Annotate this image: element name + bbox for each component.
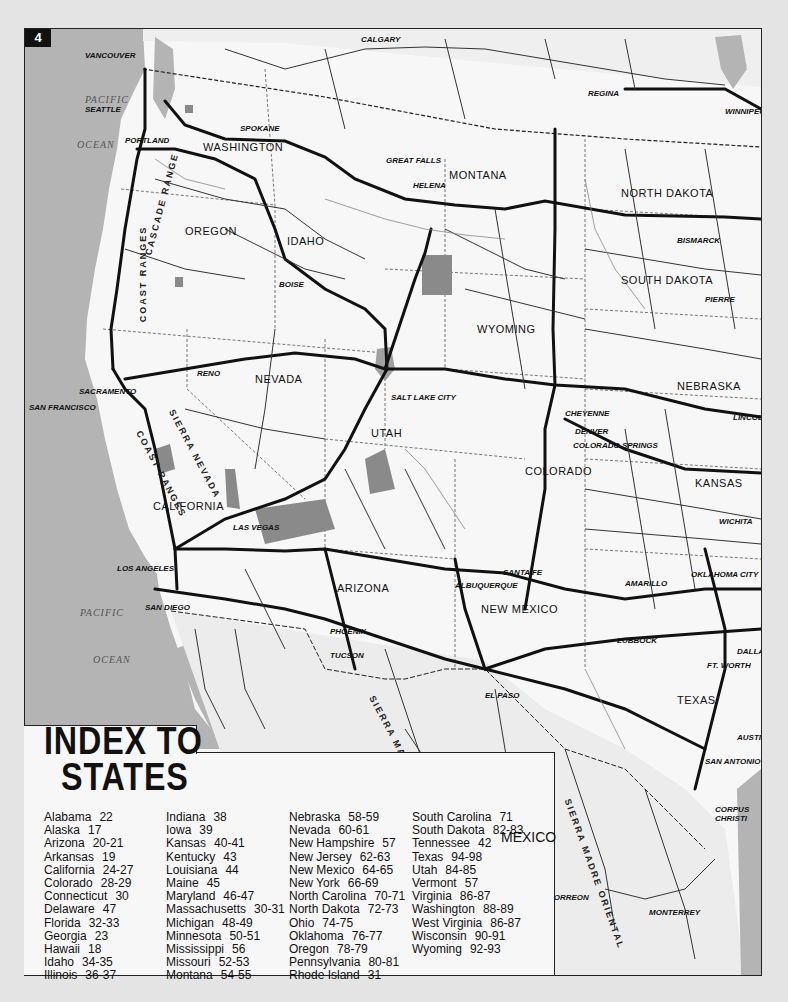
city-label-regina: REGINA	[588, 89, 619, 98]
city-label-seattle: SEATTLE	[85, 105, 121, 114]
city-label-san-antonio: SAN ANTONIO	[705, 757, 761, 766]
city-label-helena: HELENA	[413, 181, 446, 190]
page-number: 4	[25, 29, 51, 47]
city-label-santa-fe: SANTA FE	[503, 568, 542, 577]
city-label-tucson: TUCSON	[330, 651, 364, 660]
city-label-san-diego: SAN DIEGO	[145, 603, 190, 612]
state-label-oregon: OREGON	[185, 225, 237, 237]
index-column-1: Alabama22 Alaska17 Arizona20-21 Arkansas…	[44, 811, 166, 982]
index-column-2: Indiana38 Iowa39 Kansas40-41 Kentucky43 …	[166, 811, 289, 982]
city-label-salt-lake-city: SALT LAKE CITY	[391, 393, 456, 402]
state-label-montana: MONTANA	[449, 169, 507, 181]
water-label-ocean-south: OCEAN	[93, 654, 131, 665]
index-column-3: Nebraska58-59 Nevada60-61 New Hampshire5…	[289, 811, 412, 982]
state-label-idaho: IDAHO	[287, 235, 324, 247]
city-label-austin: AUSTIN	[737, 733, 762, 742]
city-label-calgary: CALGARY	[361, 35, 400, 44]
state-label-nebraska: NEBRASKA	[677, 380, 741, 392]
city-label-san-francisco: SAN FRANCISCO	[29, 403, 96, 412]
state-label-california: CALIFORNIA	[153, 500, 224, 512]
city-label-wichita: WICHITA	[719, 517, 753, 526]
city-label-oklahoma-city: OKLAHOMA CITY	[691, 570, 758, 579]
state-label-texas: TEXAS	[677, 694, 716, 706]
water-label-pacific-south: PACIFIC	[80, 607, 124, 618]
city-label-fort-worth: FT. WORTH	[707, 661, 751, 670]
city-label-las-vegas: LAS VEGAS	[233, 523, 279, 532]
index-entry: Wyoming92-93	[412, 943, 552, 956]
city-label-bismarck: BISMARCK	[677, 236, 720, 245]
water-label-pacific-north: PACIFIC	[85, 94, 129, 105]
index-entry: Rhode Island31	[289, 969, 412, 982]
city-label-lincoln: LINCOLN	[733, 413, 762, 422]
city-label-colorado-springs: COLORADO SPRINGS	[573, 441, 658, 450]
state-label-arizona: ARIZONA	[337, 582, 389, 594]
city-label-sacramento: SACRAMENTO	[79, 387, 136, 396]
city-label-pierre: PIERRE	[705, 295, 735, 304]
city-label-monterrey: MONTERREY	[649, 908, 700, 917]
index-entry: Montana54-55	[166, 969, 289, 982]
index-to-states-panel: INDEX TO STATES Alabama22 Alaska17 Arizo…	[24, 752, 555, 975]
city-label-corpus-christi: CORPUS CHRISTI	[715, 805, 759, 823]
state-label-nevada: NEVADA	[255, 373, 302, 385]
state-label-north-dakota: NORTH DAKOTA	[621, 187, 713, 199]
city-label-el-paso: EL PASO	[485, 691, 519, 700]
state-label-washington: WASHINGTON	[203, 141, 283, 153]
water-label-ocean-north: OCEAN	[77, 139, 115, 150]
city-label-great-falls: GREAT FALLS	[386, 156, 441, 165]
city-label-amarillo: AMARILLO	[625, 579, 667, 588]
city-label-phoenix: PHOENIX	[330, 627, 366, 636]
state-label-wyoming: WYOMING	[477, 323, 536, 335]
index-entry: Illinois36-37	[44, 969, 166, 982]
city-label-portland: PORTLAND	[125, 136, 169, 145]
city-label-cheyenne: CHEYENNE	[565, 409, 609, 418]
state-label-utah: UTAH	[371, 427, 402, 439]
state-label-new-mexico: NEW MEXICO	[481, 603, 558, 615]
city-label-albuquerque: ALBUQUERQUE	[455, 581, 518, 590]
city-label-spokane: SPOKANE	[240, 124, 280, 133]
index-title: INDEX TO STATES	[44, 723, 203, 795]
state-label-colorado: COLORADO	[525, 465, 592, 477]
country-label-mexico: MEXICO	[501, 829, 556, 845]
state-label-south-dakota: SOUTH DAKOTA	[621, 274, 713, 286]
city-label-lubbock: LUBBOCK	[617, 636, 657, 645]
city-label-reno: RENO	[197, 369, 220, 378]
city-label-dallas: DALLAS	[737, 647, 762, 656]
city-label-los-angeles: LOS ANGELES	[117, 564, 174, 573]
state-label-kansas: KANSAS	[695, 477, 743, 489]
city-label-winnipeg: WINNIPEG	[725, 107, 762, 116]
city-label-vancouver: VANCOUVER	[85, 51, 136, 60]
city-label-boise: BOISE	[279, 280, 304, 289]
index-columns: Alabama22 Alaska17 Arizona20-21 Arkansas…	[44, 811, 552, 982]
city-label-denver: DENVER	[575, 427, 608, 436]
